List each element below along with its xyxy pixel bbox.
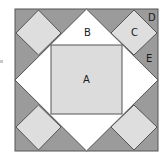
label-e: E — [146, 53, 152, 64]
quilt-block-diagram: A B C D E — [0, 0, 165, 160]
label-d: D — [148, 12, 156, 23]
label-a: A — [83, 74, 90, 85]
label-b: B — [84, 27, 91, 38]
label-c: C — [131, 27, 138, 38]
